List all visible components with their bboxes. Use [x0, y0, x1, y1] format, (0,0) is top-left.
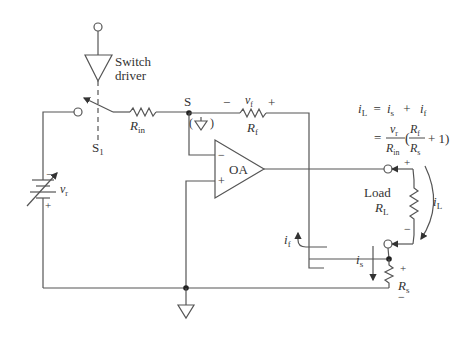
rl-label: RL	[374, 200, 388, 217]
svg-text:−: −	[218, 148, 225, 162]
il-arrow	[421, 166, 434, 239]
rs-label: Rs	[397, 278, 410, 295]
circuit-diagram: Switch driver S1 Rin S ( ) − vf + Rf OA …	[0, 0, 461, 342]
if-arrow	[298, 233, 327, 247]
switch-driver: Switch driver	[85, 23, 152, 140]
virtual-ground-icon	[195, 121, 207, 130]
rf-resistor	[240, 109, 266, 117]
ground-icon	[178, 305, 194, 318]
svg-text:−: −	[223, 95, 230, 110]
load-top-terminal	[384, 165, 392, 173]
svg-text:driver: driver	[115, 68, 147, 83]
noninverting-wire	[186, 181, 215, 288]
svg-text:Rs: Rs	[409, 141, 420, 157]
is-label: is	[356, 252, 364, 269]
svg-text:OA: OA	[229, 162, 248, 177]
svg-text:+: +	[45, 199, 51, 211]
if-label: if	[284, 232, 291, 249]
svg-text:): )	[210, 116, 214, 130]
feedback-wire	[266, 113, 324, 268]
il-label: iL	[433, 194, 442, 211]
svg-text:−: −	[46, 168, 52, 180]
switch-contact-terminal	[74, 108, 82, 116]
svg-text:+: +	[268, 95, 275, 110]
rf-label: Rf	[246, 120, 258, 137]
rin-resistor	[130, 108, 156, 116]
variable-voltage-source: − + vr	[27, 168, 68, 288]
svg-text:S: S	[184, 94, 191, 109]
svg-text:−: −	[404, 222, 411, 236]
vf-label: vf	[245, 93, 253, 109]
rs-resistor	[385, 259, 393, 288]
svg-text:+: +	[404, 156, 410, 168]
svg-text:+ 1): + 1)	[428, 131, 449, 146]
equation-block: iL = is + if = vr Rin ( Rf Rs + 1)	[358, 101, 449, 157]
svg-text:Rin: Rin	[385, 141, 400, 157]
driver-triangle-icon	[85, 55, 112, 81]
driver-input-terminal	[94, 23, 102, 31]
equation-line-2-eq: =	[374, 130, 381, 145]
svg-text:+: +	[218, 174, 225, 188]
svg-text:Switch: Switch	[115, 54, 152, 69]
load-bottom-terminal	[384, 240, 392, 248]
rin-label: Rin	[129, 118, 145, 135]
load-resistor	[410, 169, 418, 244]
svg-text:Rf: Rf	[409, 122, 420, 138]
variable-arrow-icon	[27, 173, 57, 206]
svg-text:vr: vr	[390, 122, 398, 138]
equation-line-1: iL = is + if	[358, 101, 427, 119]
left-wire-top	[43, 112, 74, 175]
svg-text:Load: Load	[364, 185, 391, 200]
svg-text:vr: vr	[60, 182, 68, 198]
switch-label: S1	[92, 140, 104, 157]
svg-text:+: +	[400, 262, 406, 274]
